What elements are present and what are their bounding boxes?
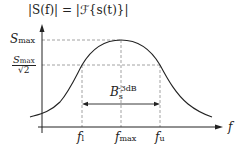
fu-label: fu: [155, 131, 165, 143]
smax-sub: max: [18, 36, 35, 45]
y-axis-arrow-icon: [40, 24, 45, 32]
fmax-label: fmax: [115, 131, 136, 143]
frac-num-main: S: [13, 54, 20, 65]
bandwidth-label: Bs-3dB: [110, 86, 137, 98]
fmax-sub: max: [119, 134, 136, 143]
fl-label: fl: [77, 131, 84, 143]
x-axis-arrow-icon: [215, 125, 223, 130]
fu-sub: u: [159, 134, 164, 143]
smax-label: Smax: [10, 33, 35, 45]
frac-num-sub: max: [20, 57, 35, 65]
spectrum-plot: [0, 0, 245, 146]
fl-sub: l: [81, 134, 84, 143]
smax-main: S: [10, 32, 18, 46]
guide-lines: [42, 40, 160, 127]
title-text: |S(f)| = |ℱ{s(t)}|: [28, 3, 129, 17]
x-axis-label: f: [228, 121, 232, 133]
bandwidth-arrow-left-icon: [82, 102, 88, 106]
bandwidth-sup: -3dB: [118, 84, 137, 93]
axes: [38, 30, 218, 133]
bandwidth-sub: s: [119, 92, 123, 101]
bandwidth-arrow-right-icon: [154, 102, 160, 106]
y-axis-title: |S(f)| = |ℱ{s(t)}|: [28, 3, 129, 17]
smax-sqrt2-label: Smax √2: [12, 55, 36, 75]
frac-denominator: √2: [12, 66, 36, 75]
